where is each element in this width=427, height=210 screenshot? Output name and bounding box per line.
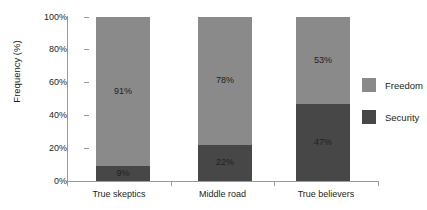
bar-true-believers[interactable]: 53% 47% xyxy=(296,17,350,181)
y-tick-mark xyxy=(84,17,89,18)
y-tick-label: 80% xyxy=(29,45,67,54)
legend-swatch-freedom-icon xyxy=(362,78,376,92)
x-tick-label-true-believers: True believers xyxy=(274,189,378,199)
y-tick-mark xyxy=(84,49,89,50)
y-tick-60: 60% xyxy=(22,82,67,83)
y-tick-label: 40% xyxy=(29,111,67,120)
x-tick-mark xyxy=(378,181,379,186)
y-tick-mark xyxy=(84,115,89,116)
y-tick-label: 100% xyxy=(29,13,67,22)
x-tick-label-true-skeptics: True skeptics xyxy=(67,189,171,199)
y-tick-20: 20% xyxy=(22,148,67,149)
bar-middle-road[interactable]: 78% 22% xyxy=(198,17,252,181)
bar-true-skeptics[interactable]: 91% 9% xyxy=(96,17,150,181)
y-axis-title: Frequency (%) xyxy=(11,12,22,132)
bar-segment-security[interactable]: 22% xyxy=(198,145,252,181)
legend-swatch-security-icon xyxy=(362,110,376,124)
bar-value-label: 78% xyxy=(216,76,234,85)
legend-label-security: Security xyxy=(385,112,419,123)
x-axis-line xyxy=(67,181,379,182)
y-tick-label: 60% xyxy=(29,78,67,87)
y-axis-line xyxy=(67,16,68,181)
y-tick-mark xyxy=(84,148,89,149)
x-tick-mark xyxy=(67,181,68,186)
bar-value-label: 53% xyxy=(314,56,332,65)
bar-segment-freedom[interactable]: 78% xyxy=(198,17,252,145)
x-tick-mark xyxy=(171,181,172,186)
bar-segment-freedom[interactable]: 91% xyxy=(96,17,150,166)
legend-label-freedom: Freedom xyxy=(385,80,423,91)
x-tick-label-middle-road: Middle road xyxy=(171,189,274,199)
bar-segment-freedom[interactable]: 53% xyxy=(296,17,350,104)
bar-value-label: 9% xyxy=(116,169,129,178)
y-tick-0: 0% xyxy=(22,181,67,182)
y-tick-80: 80% xyxy=(22,49,67,50)
bar-segment-security[interactable]: 9% xyxy=(96,166,150,181)
y-tick-label: 0% xyxy=(29,177,67,186)
stacked-bar-chart: Frequency (%) 100% 80% 60% 40% 20% 0% 91… xyxy=(0,0,427,210)
bar-value-label: 47% xyxy=(314,138,332,147)
y-tick-100: 100% xyxy=(22,17,67,18)
legend-item-freedom[interactable]: Freedom xyxy=(362,78,423,92)
y-tick-40: 40% xyxy=(22,115,67,116)
bar-value-label: 22% xyxy=(216,158,234,167)
y-tick-mark xyxy=(84,82,89,83)
x-tick-mark xyxy=(274,181,275,186)
legend-item-security[interactable]: Security xyxy=(362,110,419,124)
y-tick-label: 20% xyxy=(29,144,67,153)
bar-segment-security[interactable]: 47% xyxy=(296,104,350,181)
bar-value-label: 91% xyxy=(114,87,132,96)
